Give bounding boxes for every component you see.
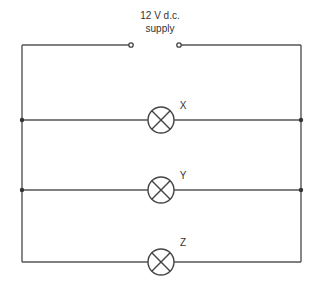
lamp-x-icon	[148, 107, 174, 133]
lamp-z-icon	[148, 249, 174, 275]
lamp-y-icon	[148, 177, 174, 203]
junction-dot-icon	[299, 188, 303, 192]
supply-label-line1: 12 V d.c.	[120, 9, 200, 22]
supply-label: 12 V d.c. supply	[120, 9, 200, 35]
junction-dot-icon	[20, 118, 24, 122]
circuit-diagram	[0, 0, 317, 287]
lamp-x-label: X	[177, 99, 189, 112]
junction-dot-icon	[299, 118, 303, 122]
supply-terminal-right-icon	[177, 43, 181, 47]
supply-label-line2: supply	[120, 22, 200, 35]
lamp-y-label: Y	[177, 169, 189, 182]
lamp-z-label: Z	[177, 236, 189, 249]
supply-terminal-left-icon	[129, 43, 133, 47]
junction-dot-icon	[20, 188, 24, 192]
